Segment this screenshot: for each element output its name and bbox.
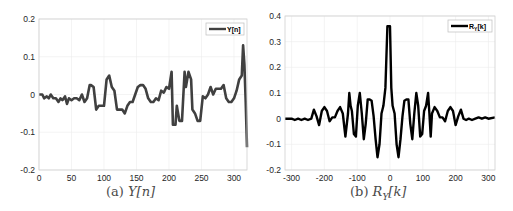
chart-b-caption: (b) RY[k]: [350, 184, 406, 202]
x-tick-label: 200: [162, 173, 176, 183]
chart-b-caption-prefix: (b): [350, 184, 373, 199]
y-tick-label: 0: [30, 90, 35, 100]
x-tick-label: -100: [349, 173, 366, 183]
x-tick-label: 50: [67, 173, 77, 183]
chart-a-plot: 050100150200250300-0.2-0.100.10.2Y[n]: [0, 0, 256, 211]
chart-a-caption-math: Y[n]: [128, 184, 155, 199]
legend-label: Y[n]: [227, 26, 241, 34]
x-tick-label: -200: [316, 173, 333, 183]
x-tick-label: 150: [129, 173, 143, 183]
x-tick-label: 300: [227, 173, 241, 183]
x-tick-label: 300: [481, 173, 495, 183]
y-tick-label: -0.1: [266, 139, 281, 149]
y-tick-label: 0.4: [269, 11, 281, 21]
x-tick-label: -300: [283, 173, 300, 183]
chart-panel-a: 050100150200250300-0.2-0.100.10.2Y[n] (a…: [0, 0, 256, 211]
y-tick-label: 0: [276, 114, 281, 124]
y-tick-label: 0.2: [269, 62, 281, 72]
x-tick-label: 100: [97, 173, 111, 183]
y-tick-label: 0.3: [269, 37, 281, 47]
x-tick-label: 200: [449, 173, 463, 183]
y-tick-label: -0.2: [20, 165, 35, 175]
chart-a-caption: (a) Y[n]: [106, 184, 155, 199]
y-tick-label: 0.2: [23, 14, 35, 24]
y-tick-label: -0.1: [20, 127, 35, 137]
x-tick-label: 250: [194, 173, 208, 183]
chart-b-plot: -300-200-1000100200300-0.2-0.100.10.20.3…: [256, 0, 513, 211]
x-tick-label: 0: [388, 173, 393, 183]
y-tick-label: 0.1: [23, 52, 35, 62]
y-tick-label: -0.2: [266, 165, 281, 175]
chart-b-caption-suffix: [k]: [388, 184, 406, 199]
x-tick-label: 100: [416, 173, 430, 183]
chart-panel-b: -300-200-1000100200300-0.2-0.100.10.20.3…: [256, 0, 513, 211]
x-tick-label: 0: [37, 173, 42, 183]
y-tick-label: 0.1: [269, 88, 281, 98]
chart-a-caption-prefix: (a): [106, 184, 128, 199]
chart-b-caption-math: R: [373, 184, 383, 199]
